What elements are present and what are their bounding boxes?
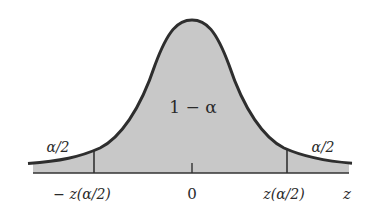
normal-distribution-diagram: 1 − α α/2 α/2 − z(α/2) 0 z(α/2) z bbox=[0, 0, 367, 211]
center-tick-label: 0 bbox=[187, 185, 197, 203]
left-tail-label: α/2 bbox=[46, 139, 69, 155]
right-critical-value-label: z(α/2) bbox=[262, 186, 304, 202]
left-critical-value-label: − z(α/2) bbox=[53, 186, 111, 202]
right-tail-label: α/2 bbox=[311, 139, 334, 155]
center-area-label: 1 − α bbox=[169, 97, 217, 117]
axis-name-label: z bbox=[342, 185, 351, 203]
